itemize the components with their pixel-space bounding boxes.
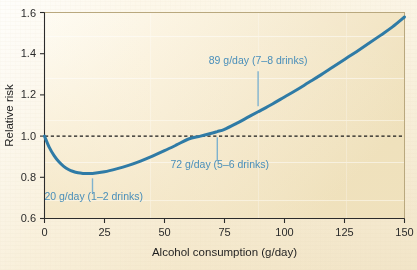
relative-risk-chart: 0.6 0.8 1.0 1.2 1.4 1.6 0 25 50 75 100 1… <box>0 0 417 270</box>
annotation-label-89-gday: 89 g/day (7–8 drinks) <box>209 54 308 66</box>
y-tick-label-1: 0.8 <box>21 171 36 183</box>
x-tick-label-125: 125 <box>335 226 353 238</box>
y-axis-ticks <box>40 13 45 219</box>
y-axis-title: Relative risk <box>3 84 15 147</box>
x-axis-ticks <box>45 219 405 224</box>
x-tick-label-150: 150 <box>395 226 413 238</box>
y-tick-label-0: 0.6 <box>21 212 36 224</box>
y-tick-label-2: 1.0 <box>21 130 36 142</box>
x-axis-title: Alcohol consumption (g/day) <box>152 246 297 258</box>
y-tick-label-5: 1.6 <box>21 7 36 19</box>
y-tick-label-3: 1.2 <box>21 88 36 100</box>
x-tick-label-50: 50 <box>158 226 170 238</box>
x-tick-label-25: 25 <box>98 226 110 238</box>
x-tick-label-75: 75 <box>218 226 230 238</box>
y-tick-label-4: 1.4 <box>21 47 36 59</box>
x-tick-label-0: 0 <box>41 226 47 238</box>
plot-area-shading <box>45 13 405 219</box>
annotation-label-20-gday: 20 g/day (1–2 drinks) <box>44 190 143 202</box>
figure-container: 0.6 0.8 1.0 1.2 1.4 1.6 0 25 50 75 100 1… <box>0 0 417 270</box>
annotation-label-72-gday: 72 g/day (5–6 drinks) <box>170 158 269 170</box>
x-tick-label-100: 100 <box>275 226 293 238</box>
